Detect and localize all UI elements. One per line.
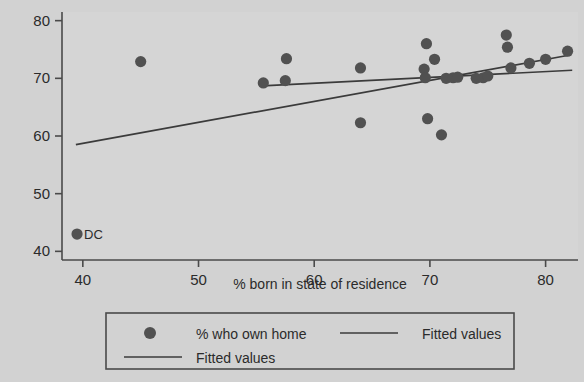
data-point <box>135 56 146 67</box>
legend-label-1: Fitted values <box>422 326 501 342</box>
plot-area-background <box>62 12 578 260</box>
data-point <box>482 70 493 81</box>
data-point <box>501 29 512 40</box>
data-point <box>422 113 433 124</box>
data-point <box>505 62 516 73</box>
data-point <box>421 38 432 49</box>
data-point <box>502 42 513 53</box>
data-point <box>420 72 431 83</box>
x-tick-label: 40 <box>74 271 91 288</box>
chart-canvas: 4050607080 4050607080 DC % born in state… <box>0 0 584 382</box>
legend-label-2: Fitted values <box>196 350 275 366</box>
x-axis-title: % born in state of residence <box>233 276 407 292</box>
y-tick-label: 70 <box>33 69 50 86</box>
y-tick-label: 50 <box>33 185 50 202</box>
point-label-DC: DC <box>84 227 103 242</box>
data-point <box>281 53 292 64</box>
point-annotations: DC <box>84 227 103 242</box>
y-tick-label: 80 <box>33 12 50 29</box>
data-point <box>452 72 463 83</box>
x-tick-label: 80 <box>537 271 554 288</box>
legend-marker-icon <box>144 327 156 339</box>
data-point <box>540 54 551 65</box>
data-point <box>280 75 291 86</box>
data-point <box>355 117 366 128</box>
data-point <box>355 62 366 73</box>
x-tick-label: 50 <box>190 271 207 288</box>
data-point <box>258 77 269 88</box>
legend-label-0: % who own home <box>196 326 307 342</box>
data-point <box>429 54 440 65</box>
data-point <box>562 46 573 57</box>
data-point <box>71 228 82 239</box>
y-tick-label: 40 <box>33 242 50 259</box>
data-point <box>524 58 535 69</box>
y-tick-label: 60 <box>33 127 50 144</box>
scatter-plot-figure: 4050607080 4050607080 DC % born in state… <box>0 0 584 382</box>
x-tick-label: 70 <box>422 271 439 288</box>
data-point <box>436 129 447 140</box>
